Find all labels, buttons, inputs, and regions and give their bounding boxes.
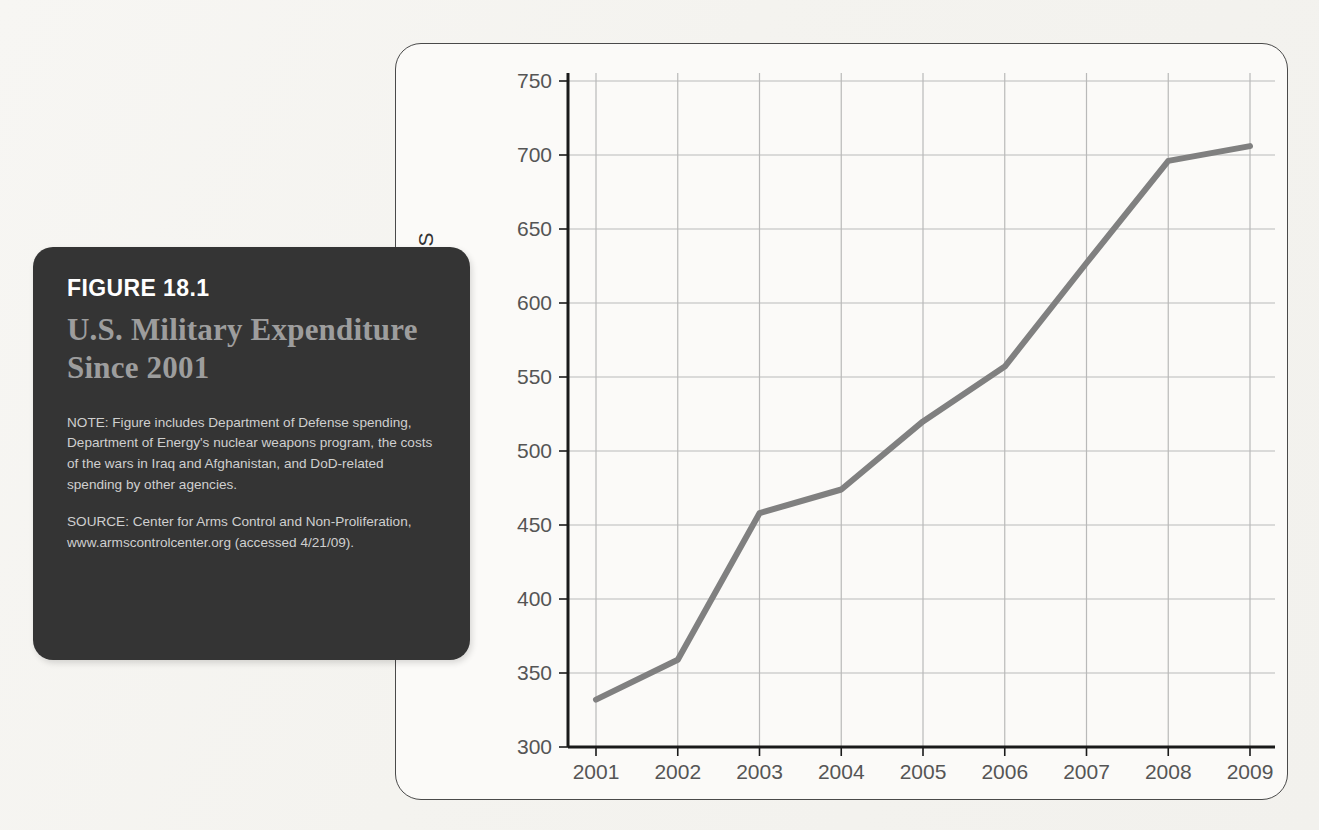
line-chart: 300350400450500550600650700750 200120022… — [395, 43, 1288, 800]
x-tick-label: 2008 — [1145, 760, 1192, 783]
x-tick-label: 2003 — [736, 760, 783, 783]
grid-lines — [568, 73, 1275, 747]
y-tick-label: 350 — [517, 661, 552, 684]
x-axis-tick-labels: 200120022003200420052006200720082009 — [573, 760, 1274, 783]
y-tick-label: 550 — [517, 365, 552, 388]
y-tick-label: 450 — [517, 513, 552, 536]
chart-container: 300350400450500550600650700750 200120022… — [395, 43, 1288, 800]
y-tick-label: 300 — [517, 735, 552, 758]
y-tick-label: 700 — [517, 143, 552, 166]
chart-axes — [568, 73, 1275, 747]
y-axis-tick-labels: 300350400450500550600650700750 — [517, 69, 552, 758]
x-tick-label: 2009 — [1227, 760, 1274, 783]
figure-source-text: SOURCE: Center for Arms Control and Non-… — [67, 512, 436, 553]
x-tick-label: 2005 — [900, 760, 947, 783]
y-tick-label: 600 — [517, 291, 552, 314]
y-tick-label: 400 — [517, 587, 552, 610]
x-tick-label: 2002 — [654, 760, 701, 783]
x-tick-label: 2001 — [573, 760, 620, 783]
x-tick-label: 2007 — [1063, 760, 1110, 783]
figure-caption-card: FIGURE 18.1 U.S. Military Expenditure Si… — [33, 247, 470, 660]
figure-title: U.S. Military Expenditure Since 2001 — [67, 311, 436, 387]
figure-number-label: FIGURE 18.1 — [67, 275, 436, 302]
y-tick-label: 750 — [517, 69, 552, 92]
figure-note-text: NOTE: Figure includes Department of Defe… — [67, 413, 436, 496]
x-tick-label: 2006 — [981, 760, 1028, 783]
x-tick-label: 2004 — [818, 760, 865, 783]
y-tick-label: 500 — [517, 439, 552, 462]
y-tick-label: 650 — [517, 217, 552, 240]
